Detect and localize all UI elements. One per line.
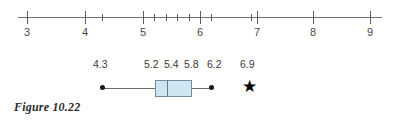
box-and-whisker-plot: 4.3 5.2 5.4 5.8 6.2 6.9 ★ — [0, 56, 399, 100]
axis-label-9: 9 — [360, 26, 380, 39]
median-line — [167, 80, 168, 97]
figure-10-22: 3 4 5 6 7 8 9 4.3 5.2 5.4 5.8 6.2 6.9 ★ … — [0, 0, 399, 121]
whisker-right — [191, 88, 211, 89]
boxplot-label-q3: 5.8 — [184, 58, 199, 71]
number-line-axis: 3 4 5 6 7 8 9 — [0, 0, 399, 48]
axis-label-6: 6 — [190, 26, 210, 39]
whisker-endpoint-max — [209, 85, 214, 90]
axis-tick-4 — [85, 11, 86, 24]
axis-minor-tick-5-8 — [189, 14, 190, 21]
outlier-star-icon: ★ — [242, 78, 257, 95]
axis-label-5: 5 — [133, 26, 153, 39]
boxplot-label-median: 5.4 — [164, 58, 179, 71]
axis-label-8: 8 — [303, 26, 323, 39]
axis-tick-7 — [257, 11, 258, 24]
axis-label-3: 3 — [17, 26, 37, 39]
axis-label-7: 7 — [247, 26, 267, 39]
figure-caption: Figure 10.22 — [14, 100, 80, 115]
whisker-left — [102, 88, 156, 89]
whisker-endpoint-min — [100, 85, 105, 90]
boxplot-label-max: 6.2 — [207, 58, 222, 71]
axis-tick-6 — [200, 11, 201, 24]
axis-tick-9 — [370, 11, 371, 24]
axis-tick-8 — [313, 11, 314, 24]
axis-minor-tick-6-2 — [211, 14, 212, 21]
interquartile-box — [155, 80, 192, 97]
axis-tick-5 — [143, 11, 144, 24]
axis-minor-tick-4-3 — [102, 14, 103, 21]
axis-minor-tick-5-5 — [177, 14, 178, 21]
boxplot-label-q1: 5.2 — [144, 58, 159, 71]
axis-label-4: 4 — [75, 26, 95, 39]
boxplot-label-outlier: 6.9 — [240, 58, 255, 71]
axis-tick-3 — [27, 11, 28, 24]
axis-minor-tick-5-4 — [166, 14, 167, 21]
boxplot-label-min: 4.3 — [93, 58, 108, 71]
axis-minor-tick-6-9 — [251, 14, 252, 21]
axis-minor-tick-5-2 — [154, 14, 155, 21]
